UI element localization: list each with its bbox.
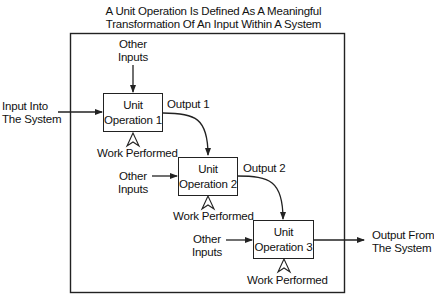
other-inputs-1-label-line-2: Inputs xyxy=(113,51,153,64)
unit-operation-1-line-1: Unit xyxy=(123,98,143,113)
work-performed-2-label: Work Performed xyxy=(173,210,254,223)
output-1-label: Output 1 xyxy=(167,98,210,111)
work-performed-3-label: Work Performed xyxy=(247,274,328,287)
unit-operation-2-box: Unit Operation 2 xyxy=(178,157,238,196)
system-input-label-line-2: The System xyxy=(2,113,61,126)
other-inputs-3-label-line-2: Inputs xyxy=(190,246,224,259)
unit-operation-3-box: Unit Operation 3 xyxy=(253,220,314,259)
unit-operation-3-line-2: Operation 3 xyxy=(255,240,313,255)
system-output-label-line-1: Output From xyxy=(372,229,434,242)
work-arrow-2 xyxy=(202,196,214,209)
system-output-label-line-2: The System xyxy=(372,242,431,255)
unit-operation-1-line-2: Operation 1 xyxy=(104,113,162,128)
unit-operation-3-line-1: Unit xyxy=(274,225,294,240)
other-inputs-2-label-line-1: Other xyxy=(116,170,150,183)
other-inputs-2-label-line-2: Inputs xyxy=(116,183,150,196)
work-arrow-3 xyxy=(278,259,290,272)
other-inputs-1-label-line-1: Other xyxy=(113,38,153,51)
system-input-label-line-1: Input Into xyxy=(2,100,48,113)
unit-operation-2-line-1: Unit xyxy=(198,162,218,177)
output-2-label: Output 2 xyxy=(243,162,286,175)
unit-operation-2-line-2: Operation 2 xyxy=(179,177,237,192)
work-arrow-1 xyxy=(127,133,139,146)
work-performed-1-label: Work Performed xyxy=(97,147,178,160)
other-inputs-3-label-line-1: Other xyxy=(190,233,224,246)
unit-operation-1-box: Unit Operation 1 xyxy=(103,93,163,132)
